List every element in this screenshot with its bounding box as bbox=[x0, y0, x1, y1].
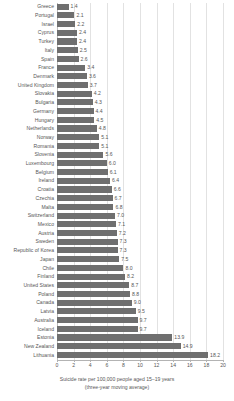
bar-row[interactable]: Netherlands4.8 bbox=[57, 125, 223, 134]
bar-value-label: 2.1 bbox=[74, 14, 83, 19]
bar-row[interactable]: Romania5.1 bbox=[57, 142, 223, 151]
bar-row[interactable]: Canada9.0 bbox=[57, 299, 223, 308]
bar[interactable] bbox=[57, 343, 181, 349]
bar-row[interactable]: New Zealand14.9 bbox=[57, 343, 223, 352]
bar[interactable] bbox=[57, 65, 85, 71]
bar[interactable] bbox=[57, 21, 75, 27]
bar-row[interactable]: Croatia6.6 bbox=[57, 186, 223, 195]
bar-row[interactable]: Iceland9.7 bbox=[57, 325, 223, 334]
bar[interactable] bbox=[57, 178, 110, 184]
bar-row[interactable]: France3.4 bbox=[57, 64, 223, 73]
bar[interactable] bbox=[57, 186, 112, 192]
bar[interactable] bbox=[57, 117, 94, 123]
bar[interactable] bbox=[57, 99, 93, 105]
bar[interactable] bbox=[57, 125, 97, 131]
bar-row[interactable]: Australia9.7 bbox=[57, 316, 223, 325]
bar[interactable] bbox=[57, 256, 119, 262]
bar[interactable] bbox=[57, 308, 136, 314]
bar-row[interactable]: Poland8.8 bbox=[57, 290, 223, 299]
bar-row[interactable]: Finland8.2 bbox=[57, 273, 223, 282]
bar-row[interactable]: Czechia6.7 bbox=[57, 195, 223, 204]
category-label: Chile bbox=[42, 266, 54, 271]
bar[interactable] bbox=[57, 38, 77, 44]
bar-row[interactable]: Republic of Korea7.3 bbox=[57, 247, 223, 256]
bar-row[interactable]: Norway5.1 bbox=[57, 134, 223, 143]
bar-row[interactable]: Slovenia5.6 bbox=[57, 151, 223, 160]
bar[interactable] bbox=[57, 204, 113, 210]
bar-row[interactable]: Sweden7.3 bbox=[57, 238, 223, 247]
bar-row[interactable]: Lithuania18.2 bbox=[57, 351, 223, 360]
bar-row[interactable]: Luxembourg6.0 bbox=[57, 160, 223, 169]
bar[interactable] bbox=[57, 152, 103, 158]
bar[interactable] bbox=[57, 108, 94, 114]
category-label: Lithuania bbox=[33, 353, 54, 358]
bar-row[interactable]: Slovakia4.2 bbox=[57, 90, 223, 99]
bar-row[interactable]: Turkey2.4 bbox=[57, 38, 223, 47]
category-label: Ireland bbox=[38, 179, 54, 184]
bar[interactable] bbox=[57, 300, 132, 306]
category-label: Spain bbox=[41, 57, 54, 62]
bar-row[interactable]: Malta6.8 bbox=[57, 203, 223, 212]
bar[interactable] bbox=[57, 239, 118, 245]
bar[interactable] bbox=[57, 143, 99, 149]
bar[interactable] bbox=[57, 47, 78, 53]
bar-row[interactable]: Israel2.2 bbox=[57, 20, 223, 29]
bar-row[interactable]: Hungary4.5 bbox=[57, 116, 223, 125]
bar[interactable] bbox=[57, 247, 118, 253]
bar-row[interactable]: Denmark3.6 bbox=[57, 73, 223, 82]
x-tick-label: 2 bbox=[72, 363, 75, 368]
bar[interactable] bbox=[57, 195, 113, 201]
bar-row[interactable]: Belgium6.1 bbox=[57, 168, 223, 177]
bar-row[interactable]: Chile8.0 bbox=[57, 264, 223, 273]
bar[interactable] bbox=[57, 213, 115, 219]
bar[interactable] bbox=[57, 82, 88, 88]
bar[interactable] bbox=[57, 274, 125, 280]
bar[interactable] bbox=[57, 56, 79, 62]
bar-value-label: 7.3 bbox=[118, 249, 127, 254]
bar[interactable] bbox=[57, 265, 123, 271]
bar-row[interactable]: Greece1.4 bbox=[57, 3, 223, 12]
bar-row[interactable]: Switzerland7.0 bbox=[57, 212, 223, 221]
bar[interactable] bbox=[57, 12, 74, 18]
bar[interactable] bbox=[57, 160, 107, 166]
bar[interactable] bbox=[57, 73, 87, 79]
bar-row[interactable]: Italy2.5 bbox=[57, 47, 223, 56]
bar-value-label: 9.7 bbox=[138, 318, 147, 323]
bar-row[interactable]: Bulgaria4.3 bbox=[57, 99, 223, 108]
bar-row[interactable]: Estonia13.9 bbox=[57, 334, 223, 343]
bar-value-label: 1.4 bbox=[69, 5, 78, 10]
bar-value-label: 18.2 bbox=[208, 353, 220, 358]
bar-row[interactable]: Germany4.4 bbox=[57, 107, 223, 116]
bar[interactable] bbox=[57, 169, 108, 175]
bar[interactable] bbox=[57, 317, 138, 323]
bar[interactable] bbox=[57, 326, 138, 332]
bar-row[interactable]: Latvia9.5 bbox=[57, 308, 223, 317]
x-tick-label: 6 bbox=[105, 363, 108, 368]
bar-row[interactable]: Cyprus2.4 bbox=[57, 29, 223, 38]
bar-row[interactable]: United States8.7 bbox=[57, 282, 223, 291]
bar-row[interactable]: Japan7.5 bbox=[57, 256, 223, 265]
category-label: Japan bbox=[40, 257, 54, 262]
bar[interactable] bbox=[57, 91, 92, 97]
bar[interactable] bbox=[57, 282, 129, 288]
bar[interactable] bbox=[57, 352, 208, 358]
category-label: Austria bbox=[38, 231, 54, 236]
bar-row[interactable]: Ireland6.4 bbox=[57, 177, 223, 186]
bar-row[interactable]: Austria7.2 bbox=[57, 229, 223, 238]
bar[interactable] bbox=[57, 134, 99, 140]
bar-row[interactable]: Spain2.6 bbox=[57, 55, 223, 64]
bar[interactable] bbox=[57, 334, 172, 340]
bar-row[interactable]: Portugal2.1 bbox=[57, 12, 223, 21]
bar[interactable] bbox=[57, 221, 116, 227]
bar[interactable] bbox=[57, 291, 130, 297]
category-label: Slovenia bbox=[34, 153, 54, 158]
bar-row[interactable]: United Kingdom3.7 bbox=[57, 81, 223, 90]
bar-row[interactable]: Mexico7.1 bbox=[57, 221, 223, 230]
bar[interactable] bbox=[57, 230, 117, 236]
category-label: Hungary bbox=[35, 118, 54, 123]
bar[interactable] bbox=[57, 30, 77, 36]
bar-value-label: 6.1 bbox=[108, 170, 117, 175]
bar-value-label: 3.4 bbox=[85, 66, 94, 71]
x-tick-label: 0 bbox=[56, 363, 59, 368]
bar[interactable] bbox=[57, 4, 69, 10]
